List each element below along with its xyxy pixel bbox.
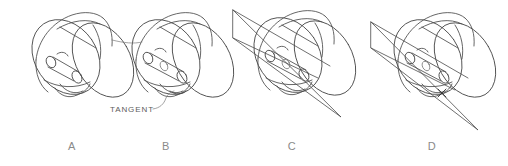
panel-label-d: D [428, 140, 436, 152]
figure-panel-d [371, 7, 508, 130]
panel-label-b: B [162, 140, 170, 152]
figure-panel-c [233, 5, 368, 117]
connector-line-a-b [112, 40, 142, 43]
tangent-callout: TANGENT [110, 91, 174, 114]
figure-panel-a [18, 7, 146, 109]
technical-drawing-canvas: TANGENT [0, 0, 508, 166]
panel-label-c: C [288, 140, 296, 152]
tangent-callout-label: TANGENT [110, 105, 154, 114]
figure-board: TANGENT [0, 0, 508, 166]
tangent-leader-line [153, 91, 174, 109]
cutting-plane-d [371, 22, 478, 130]
panel-label-a: A [68, 140, 76, 152]
figure-panel-b [118, 7, 246, 109]
